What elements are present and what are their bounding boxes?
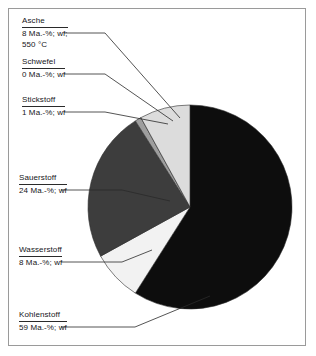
callout-stickstoff-value: 1 Ma.-%; wf (22, 106, 65, 118)
callout-sauerstoff-value: 24 Ma.-%; wf (19, 184, 67, 196)
callout-asche-value2: 550 °C (22, 39, 68, 50)
callout-stickstoff-label: Stickstoff (22, 95, 65, 106)
callout-wasserstoff-label: Wasserstoff (19, 245, 62, 256)
callout-kohlenstoff-label: Kohlenstoff (19, 310, 67, 321)
callout-asche-label: Asche (22, 16, 68, 27)
callout-stickstoff: Stickstoff 1 Ma.-%; wf (22, 95, 65, 118)
leader-line-asche (64, 33, 180, 118)
pie-slices (88, 105, 292, 309)
callout-asche-value: 8 Ma.-%; wf; (22, 27, 68, 39)
callout-sauerstoff: Sauerstoff 24 Ma.-%; wf (19, 173, 67, 196)
callout-wasserstoff-value: 8 Ma.-%; wf (19, 256, 62, 268)
callout-kohlenstoff-value: 59 Ma.-%; wf (19, 321, 67, 333)
callout-asche: Asche 8 Ma.-%; wf; 550 °C (22, 16, 68, 50)
callout-wasserstoff: Wasserstoff 8 Ma.-%; wf (19, 245, 62, 268)
callout-sauerstoff-label: Sauerstoff (19, 173, 67, 184)
pie-chart-figure: Asche 8 Ma.-%; wf; 550 °C Schwefel 0 Ma.… (0, 0, 316, 356)
callout-schwefel: Schwefel 0 Ma.-%; wf (22, 57, 65, 80)
callout-schwefel-label: Schwefel (22, 57, 65, 68)
callout-schwefel-value: 0 Ma.-%; wf (22, 68, 65, 80)
callout-kohlenstoff: Kohlenstoff 59 Ma.-%; wf (19, 310, 67, 333)
